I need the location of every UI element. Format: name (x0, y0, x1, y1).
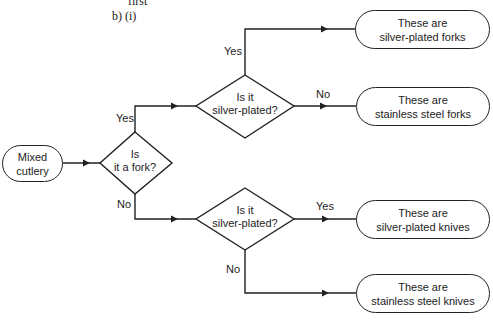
edge-label-lower-no: No (226, 263, 240, 276)
decision-lower-line2: silver-plated? (212, 217, 277, 230)
start-node-line2: cutlery (16, 164, 48, 178)
output-stainless-knives-line1: These are (371, 280, 474, 294)
decision-upper-silver-plated: Is it silver-plated? (212, 91, 277, 117)
output-silver-plated-knives: These are silver-plated knives (356, 200, 490, 239)
header-fragment: first (128, 0, 147, 8)
flowchart: first b) (i) Mixed cutlery Is it a fork?… (0, 0, 493, 320)
output-stainless-knives-line2: stainless steel knives (371, 294, 474, 308)
decision-is-it-a-fork: Is it a fork? (114, 148, 156, 174)
decision-fork-line1: Is (114, 148, 156, 161)
edge-label-upper-yes: Yes (224, 45, 242, 58)
start-node-line1: Mixed (16, 150, 48, 164)
output-silver-forks-line2: silver-plated forks (379, 30, 465, 44)
output-silver-plated-forks: These are silver-plated forks (355, 10, 490, 49)
output-stainless-forks-line1: These are (375, 93, 471, 107)
output-stainless-steel-knives: These are stainless steel knives (356, 274, 490, 313)
edge-label-upper-no: No (316, 88, 330, 101)
decision-upper-line2: silver-plated? (212, 104, 277, 117)
output-silver-knives-line1: These are (376, 206, 470, 220)
edge-label-fork-yes: Yes (116, 112, 134, 125)
decision-lower-silver-plated: Is it silver-plated? (212, 204, 277, 230)
output-silver-forks-line1: These are (379, 16, 465, 30)
output-stainless-forks-line2: stainless steel forks (375, 107, 471, 121)
output-silver-knives-line2: silver-plated knives (376, 220, 470, 234)
output-stainless-steel-forks: These are stainless steel forks (356, 87, 490, 126)
decision-upper-line1: Is it (212, 91, 277, 104)
decision-fork-line2: it a fork? (114, 161, 156, 174)
edge-label-lower-yes: Yes (316, 200, 334, 213)
start-node-mixed-cutlery: Mixed cutlery (2, 145, 63, 182)
decision-lower-line1: Is it (212, 204, 277, 217)
part-label: b) (i) (112, 10, 136, 23)
edge-label-fork-no: No (117, 198, 131, 211)
